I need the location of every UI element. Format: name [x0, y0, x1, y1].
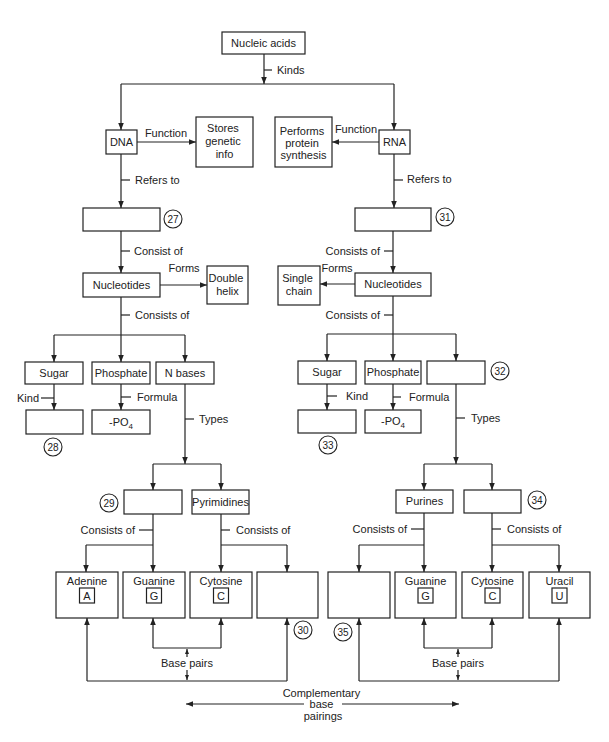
dna-consist-label: Consist of [134, 245, 184, 257]
dna-function-line-1: Stores [207, 122, 239, 134]
question-marker-number: 28 [47, 442, 59, 453]
rna-function-line-1: Performs [280, 125, 325, 137]
rna-refers-answer-node [355, 208, 431, 231]
dna-phosphate-node: Phosphate [92, 362, 150, 384]
base-letter: C [217, 590, 225, 602]
rna-forms-line-2: chain [286, 285, 312, 297]
rna-formula-label: Formula [409, 391, 450, 403]
question-marker-35: 35 [334, 623, 352, 641]
question-marker-number: 27 [167, 214, 179, 225]
rna-purines-label: Purines [406, 495, 444, 507]
dna-function-node: Stores genetic info [196, 117, 253, 167]
question-marker-number: 32 [494, 366, 506, 377]
dna-pyrimidines-label: Pyrimidines [192, 496, 249, 508]
base-answer-box [257, 572, 318, 618]
dna-refers-answer-box [83, 208, 160, 231]
rna-types-label: Types [471, 412, 501, 424]
rna-forms-label: Forms [321, 262, 353, 274]
dna-kind-label: Kind [17, 392, 39, 404]
formula-main: -PO [109, 416, 129, 428]
rna-sugar-kind-answer-box [298, 410, 356, 433]
rna-phosphate-label: Phosphate [367, 366, 420, 378]
root-node-label: Nucleic acids [231, 37, 296, 49]
rna-kind-label: Kind [346, 390, 368, 402]
dna-phosphate-label: Phosphate [95, 367, 148, 379]
formula-main: -PO [381, 415, 401, 427]
dna-sugar-kind-answer-node [26, 410, 83, 434]
complementary-line-3: pairings [304, 710, 343, 722]
dna-forms-line-2: helix [216, 285, 239, 297]
rna-function-line-2: protein [285, 137, 319, 149]
dna-sugar-kind-answer-box [26, 410, 83, 434]
rna-base-cytosine: Cytosine C [462, 572, 523, 618]
rna-function-text: Performs protein synthesis [280, 125, 328, 161]
dna-pyrimidines-node: Pyrimidines [192, 490, 249, 514]
dna-forms-node: Double helix [207, 266, 248, 304]
dna-sugar-node: Sugar [25, 362, 83, 384]
dna-purines-answer-node [124, 490, 182, 514]
dna-base-pairs-label: Base pairs [161, 657, 213, 669]
dna-base-cytosine: Cytosine C [190, 572, 252, 618]
complementary-line-2: base [310, 698, 334, 710]
question-marker-32: 32 [491, 362, 509, 380]
rna-phosphate-node: Phosphate [365, 361, 421, 384]
rna-pyrimidines-consists-label: Consists of [507, 523, 562, 535]
rna-consists-label-2: Consists of [326, 309, 381, 321]
question-marker-number: 30 [297, 625, 309, 636]
rna-function-label: Function [335, 123, 377, 135]
question-marker-number: 35 [337, 627, 349, 638]
dna-purines-answer-box [124, 490, 182, 514]
question-marker-31: 31 [436, 208, 454, 226]
dna-function-line-3: info [216, 148, 234, 160]
base-name: Guanine [133, 575, 175, 587]
rna-node-label: RNA [383, 136, 407, 148]
rna-base-answer [328, 572, 390, 618]
question-marker-28: 28 [44, 438, 62, 456]
dna-refers-label: Refers to [135, 174, 180, 186]
question-marker-number: 31 [439, 212, 451, 223]
kinds-label: Kinds [277, 64, 305, 76]
base-letter: G [150, 590, 159, 602]
dna-function-label: Function [145, 127, 187, 139]
rna-purines-consists-label: Consists of [353, 523, 408, 535]
rna-node: RNA [379, 130, 410, 154]
question-marker-number: 29 [103, 498, 115, 509]
rna-base-pairs-label: Base pairs [432, 657, 484, 669]
base-letter: U [556, 590, 564, 602]
base-letter: C [489, 590, 497, 602]
base-name: Cytosine [471, 575, 514, 587]
rna-sugar-kind-answer-node [298, 410, 356, 433]
question-marker-number: 34 [531, 495, 543, 506]
root-node: Nucleic acids [222, 32, 305, 54]
dna-pyrimidines-consists-label: Consists of [236, 524, 291, 536]
formula-subscript: 4 [401, 421, 406, 430]
question-marker-33: 33 [319, 436, 337, 454]
rna-refers-answer-box [355, 208, 431, 231]
rna-purines-node: Purines [396, 490, 453, 513]
dna-function-line-2: genetic [205, 135, 241, 147]
base-letter: G [421, 590, 430, 602]
dna-nucleotides-label: Nucleotides [93, 279, 151, 291]
rna-formula-node: -PO4 [365, 410, 421, 433]
dna-base-guanine: Guanine G [123, 572, 185, 618]
rna-function-line-3: synthesis [281, 149, 327, 161]
rna-pyrimidines-answer-box [464, 490, 521, 513]
dna-base-answer [257, 572, 318, 618]
dna-nucleotides-node: Nucleotides [83, 273, 160, 297]
base-letter: A [83, 590, 91, 602]
dna-refers-answer-node [83, 208, 160, 231]
nucleic-acids-concept-map: Nucleic acids Kinds DNA Function Stores … [0, 0, 609, 742]
dna-node-label: DNA [110, 136, 134, 148]
question-marker-34: 34 [528, 491, 546, 509]
dna-formula-node: -PO4 [92, 410, 150, 434]
rna-nbases-answer-box [427, 361, 485, 384]
question-marker-number: 33 [322, 440, 334, 451]
dna-node: DNA [106, 130, 137, 154]
rna-base-uracil: Uracil U [529, 572, 590, 618]
base-name: Uracil [545, 575, 573, 587]
base-name: Cytosine [200, 575, 243, 587]
rna-refers-label: Refers to [407, 173, 452, 185]
rna-nucleotides-label: Nucleotides [364, 278, 422, 290]
dna-forms-line-1: Double [209, 272, 244, 284]
question-marker-30: 30 [294, 621, 312, 639]
